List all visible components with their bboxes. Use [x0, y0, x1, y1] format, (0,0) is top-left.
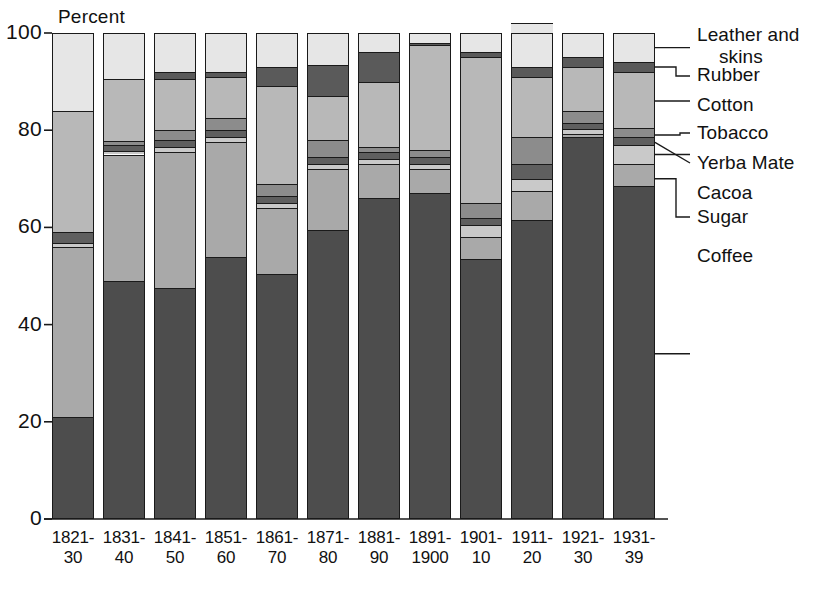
y-tick-100: 100	[0, 20, 42, 44]
segment-cotton	[511, 77, 553, 138]
bar-1931-39[interactable]	[613, 33, 655, 519]
segment-yerba-mate	[409, 157, 451, 164]
segment-leather-and-skins	[460, 33, 502, 52]
segment-leather-and-skins	[409, 33, 451, 43]
segment-sugar	[154, 152, 196, 288]
segment-coffee	[613, 186, 655, 519]
bar-1831-40[interactable]	[103, 33, 145, 519]
segment-yerba-mate	[154, 140, 196, 147]
segment-sugar	[409, 169, 451, 193]
bar-1851-60[interactable]	[205, 33, 247, 519]
segment-rubber	[256, 67, 298, 86]
segment-coffee	[511, 220, 553, 519]
segment-cacoa	[511, 179, 553, 191]
segment-sugar	[205, 142, 247, 256]
segment-yerba-mate	[103, 145, 145, 151]
bar-1841-50[interactable]	[154, 33, 196, 519]
segment-coffee	[562, 137, 604, 519]
bar-1891-1900[interactable]	[409, 33, 451, 519]
bar-1871-80[interactable]	[307, 33, 349, 519]
segment-yerba-mate	[511, 164, 553, 179]
segment-cacoa	[460, 225, 502, 237]
segment-yerba-mate	[307, 157, 349, 164]
segment-yerba-mate	[562, 123, 604, 129]
legend-label-line1: Sugar	[697, 206, 748, 228]
segment-cotton	[52, 111, 94, 233]
segment-tobacco	[460, 203, 502, 218]
segment-cotton	[103, 79, 145, 141]
legend-item-rubber[interactable]: Rubber	[697, 64, 760, 86]
segment-coffee	[409, 193, 451, 519]
segment-leather-and-skins	[103, 33, 145, 79]
legend-label-line1: Cacoa	[697, 182, 752, 204]
segment-coffee	[358, 198, 400, 519]
segment-tobacco	[562, 111, 604, 123]
bar-1921-30[interactable]	[562, 33, 604, 519]
segment-rubber	[409, 43, 451, 45]
legend-item-leather-and-skins[interactable]: Leather andskins	[697, 24, 800, 68]
legend-item-coffee[interactable]: Coffee	[697, 245, 753, 267]
segment-sugar	[460, 237, 502, 259]
y-tick-80: 80	[0, 117, 42, 141]
segment-coffee	[460, 259, 502, 519]
y-tick-0: 0	[0, 506, 42, 530]
segment-yerba-mate	[256, 196, 298, 203]
segment-cacoa	[52, 243, 94, 247]
segment-sugar	[52, 247, 94, 417]
segment-cacoa	[205, 137, 247, 142]
legend-item-sugar[interactable]: Sugar	[697, 206, 748, 228]
segment-cotton	[154, 79, 196, 130]
segment-cacoa	[307, 164, 349, 169]
segment-leather-and-skins	[154, 33, 196, 72]
segment-leather-and-skins	[307, 33, 349, 65]
segment-coffee	[256, 274, 298, 519]
segment-cotton	[562, 67, 604, 111]
segment-coffee	[307, 230, 349, 519]
segment-tobacco	[613, 128, 655, 138]
legend-item-cacoa[interactable]: Cacoa	[697, 182, 752, 204]
segment-sugar	[307, 169, 349, 230]
bar-1821-30[interactable]	[52, 33, 94, 519]
segment-sugar	[511, 191, 553, 220]
legend-label-line1: Rubber	[697, 64, 760, 86]
legend-label-line1: Yerba Mate	[697, 152, 794, 174]
segment-yerba-mate	[460, 218, 502, 225]
legend-label-line1: Tobacco	[697, 122, 768, 144]
y-tick-20: 20	[0, 409, 42, 433]
segment-yerba-mate	[613, 137, 655, 144]
y-tick-40: 40	[0, 312, 42, 336]
segment-coffee	[205, 257, 247, 519]
segment-leather-and-skins	[205, 33, 247, 72]
segment-tobacco	[511, 137, 553, 164]
bar-1861-70[interactable]	[256, 33, 298, 519]
segment-tobacco	[103, 141, 145, 145]
segment-sugar	[562, 134, 604, 138]
segment-cotton	[358, 82, 400, 148]
segment-tobacco	[358, 147, 400, 152]
segment-cacoa	[103, 151, 145, 155]
segment-cotton	[205, 77, 247, 118]
segment-cotton	[460, 57, 502, 203]
segment-rubber	[358, 52, 400, 81]
segment-rubber	[511, 67, 553, 77]
segment-tobacco	[154, 130, 196, 140]
segment-cotton	[307, 96, 349, 140]
legend-item-tobacco[interactable]: Tobacco	[697, 122, 768, 144]
legend-item-yerba-mate[interactable]: Yerba Mate	[697, 152, 794, 174]
segment-rubber	[205, 72, 247, 77]
bar-1911-20[interactable]	[511, 33, 553, 519]
legend-item-cotton[interactable]: Cotton	[697, 94, 754, 116]
segment-cacoa	[358, 159, 400, 164]
segment-leather-and-skins	[562, 33, 604, 57]
segment-sugar	[103, 155, 145, 281]
segment-tobacco	[409, 150, 451, 157]
bar-1901-10[interactable]	[460, 33, 502, 519]
y-axis-title: Percent	[58, 6, 125, 28]
segment-leather-and-skins	[256, 33, 298, 67]
x-tick-1931-39: 1931-39	[601, 528, 667, 568]
bar-1881-90[interactable]	[358, 33, 400, 519]
segment-tobacco	[256, 184, 298, 196]
segment-coffee	[52, 417, 94, 519]
segment-leather-and-skins	[358, 33, 400, 52]
segment-tobacco	[307, 140, 349, 157]
